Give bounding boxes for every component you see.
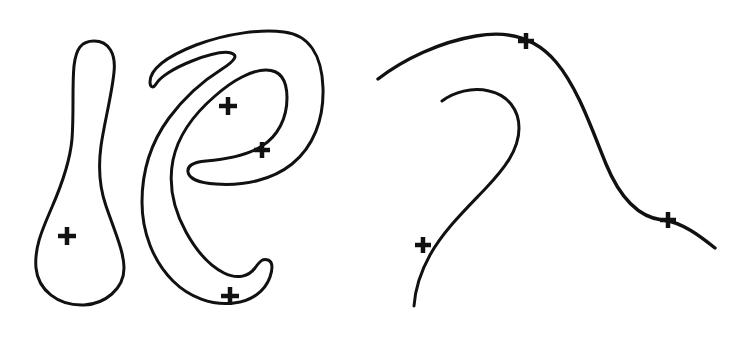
figure-svg <box>0 0 741 340</box>
figure-canvas <box>0 0 741 340</box>
